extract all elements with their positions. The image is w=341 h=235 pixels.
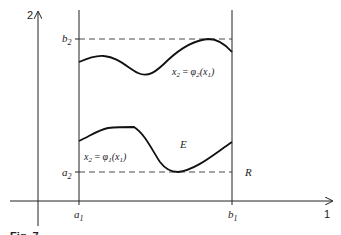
region-diagram: 2 1 b2 a2 a1 b1 x2 = φ2(x1) x2 = φ1(x1) …: [0, 0, 341, 235]
figure-caption: Fig. 7: [10, 230, 39, 235]
svg-text:x2 = φ2(x1): x2 = φ2(x1): [171, 66, 215, 79]
svg-text:a1: a1: [74, 208, 84, 223]
a2-label: a2: [62, 166, 72, 181]
svg-text:x2 = φ1(x1): x2 = φ1(x1): [83, 151, 127, 164]
svg-text:b2: b2: [62, 32, 72, 47]
rectangle-r-label: R: [244, 166, 252, 178]
lower-curve-label: x2 = φ1(x1): [83, 151, 127, 164]
y-axis-label: 2: [27, 9, 33, 21]
upper-curve-phi2: [79, 39, 232, 75]
x-axis-label: 1: [324, 208, 330, 220]
svg-text:b1: b1: [228, 208, 238, 223]
upper-curve-label: x2 = φ2(x1): [171, 66, 215, 79]
b1-label: b1: [228, 208, 238, 223]
svg-text:a2: a2: [62, 166, 72, 181]
b2-label: b2: [62, 32, 72, 47]
a1-label: a1: [74, 208, 84, 223]
region-e-label: E: [179, 138, 187, 150]
lower-curve-phi1: [79, 127, 232, 172]
